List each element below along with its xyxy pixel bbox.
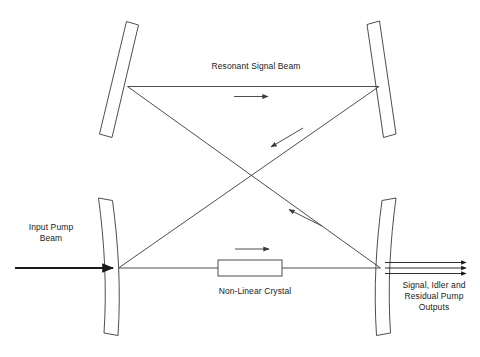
mirror-top-left — [100, 22, 139, 138]
label-signal-idler-residual-pump-outputs: Signal, Idler and Residual Pump Outputs — [392, 280, 476, 313]
label-non-linear-crystal: Non-Linear Crystal — [193, 286, 317, 297]
diagram-canvas: Resonant Signal Beam Input Pump Beam Non… — [0, 0, 480, 357]
direction-arrow-lower-diagonal — [289, 210, 322, 227]
label-input-pump-beam: Input Pump Beam — [12, 222, 90, 244]
non-linear-crystal-block — [218, 260, 282, 276]
diagonal-beam-lower-left-to-upper-right — [128, 87, 381, 269]
label-resonant-signal-beam: Resonant Signal Beam — [195, 61, 317, 72]
mirror-bottom-left-concave — [99, 198, 120, 336]
diagonal-beam-upper-right-to-lower-left — [119, 87, 380, 269]
mirror-top-right — [367, 21, 396, 138]
direction-arrow-upper-diagonal — [271, 128, 303, 147]
